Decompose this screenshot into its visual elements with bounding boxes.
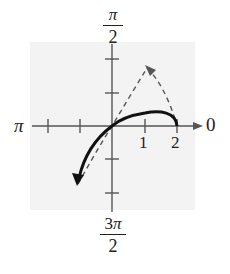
label-top-numerator: π — [107, 6, 120, 25]
label-bottom-pi: π — [113, 214, 122, 233]
tick-label-2: 2 — [171, 133, 180, 153]
label-pi-over-2: π 2 — [101, 6, 125, 46]
tick-label-1: 1 — [139, 133, 148, 153]
label-pi: π — [14, 115, 24, 137]
label-zero: 0 — [206, 114, 216, 136]
label-3pi-over-2: 3π 2 — [97, 215, 129, 255]
label-bottom-coef: 3 — [104, 214, 113, 233]
label-bottom-numerator: 3π — [102, 215, 123, 234]
axis-arrow-right-icon — [193, 122, 203, 130]
label-top-denominator: 2 — [109, 26, 118, 46]
label-bottom-denominator: 2 — [109, 235, 118, 255]
